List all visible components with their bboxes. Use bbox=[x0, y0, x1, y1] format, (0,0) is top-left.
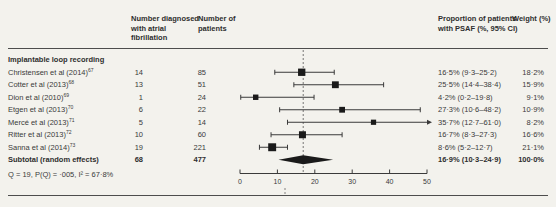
n-patients: 22 bbox=[143, 105, 206, 114]
reference-superscript: 73 bbox=[70, 141, 76, 147]
subtotal-diagnosed: 68 bbox=[120, 155, 143, 164]
reference-superscript: 70 bbox=[68, 104, 74, 110]
study-row: Etgen et al (2013)70 6 22 27·3% (10·6–48… bbox=[0, 104, 556, 117]
n-diagnosed: 19 bbox=[120, 143, 143, 152]
n-patients: 60 bbox=[143, 130, 206, 139]
subtotal-label: Subtotal (random effects) bbox=[0, 155, 120, 164]
n-diagnosed: 1 bbox=[120, 93, 143, 102]
subtotal-row: Subtotal (random effects) 68 477 16·9% (… bbox=[0, 154, 556, 167]
study-row: Dion et al (2010)69 1 24 4·2% (0·2–19·8)… bbox=[0, 91, 556, 104]
section-heading: Implantable loop recording bbox=[8, 54, 104, 66]
header-divider-line bbox=[8, 48, 548, 49]
weight-value: 15·9% bbox=[516, 80, 544, 89]
weight-value: 10·9% bbox=[516, 105, 544, 114]
reference-superscript: 72 bbox=[66, 129, 72, 135]
study-label: Sanna et al (2014) bbox=[8, 143, 70, 152]
study-row: Sanna et al (2014)73 19 221 8·6% (5·2–12… bbox=[0, 141, 556, 154]
x-axis-tick-label: 0 bbox=[238, 178, 242, 185]
study-row: Ritter et al (2013)72 10 60 16·7% (8·3–2… bbox=[0, 129, 556, 142]
proportion-ci: 16·5% (9·3–25·2) bbox=[438, 68, 516, 77]
column-header-patients: Number of patients bbox=[198, 14, 256, 33]
proportion-ci: 4·2% (0·2–19·8) bbox=[438, 93, 516, 102]
weight-value: 8·2% bbox=[516, 118, 544, 127]
proportion-ci: 35·7% (12·7–61·0) bbox=[438, 118, 516, 127]
figure-bottom-line bbox=[8, 195, 548, 196]
forest-plot-figure: Number diagnosed with atrial fibrillatio… bbox=[0, 0, 556, 207]
n-patients: 221 bbox=[143, 143, 206, 152]
column-header-diagnosed: Number diagnosed with atrial fibrillatio… bbox=[131, 14, 203, 43]
column-header-weight: Weight (%) bbox=[512, 14, 552, 24]
study-label: Etgen et al (2013) bbox=[8, 105, 68, 114]
weight-value: 16·6% bbox=[516, 130, 544, 139]
x-axis-tick-label: 30 bbox=[348, 178, 356, 185]
weight-value: 9·1% bbox=[516, 93, 544, 102]
study-row: Cotter et al (2013)68 13 51 25·5% (14·4–… bbox=[0, 79, 556, 92]
study-label: Mercé et al (2013) bbox=[8, 118, 69, 127]
proportion-ci: 27·3% (10·6–48·2) bbox=[438, 105, 516, 114]
study-label: Ritter et al (2013) bbox=[8, 130, 66, 139]
x-axis-tick-label: 40 bbox=[386, 178, 394, 185]
study-row: Mercé et al (2013)71 5 14 35·7% (12·7–61… bbox=[0, 116, 556, 129]
n-diagnosed: 6 bbox=[120, 105, 143, 114]
n-patients: 14 bbox=[143, 118, 206, 127]
heterogeneity-statistics: Q = 19, P(Q) = ·005, I² = 67·8% bbox=[8, 169, 113, 181]
study-label: Christensen et al (2014) bbox=[8, 68, 88, 77]
study-row: Christensen et al (2014)67 14 85 16·5% (… bbox=[0, 66, 556, 79]
proportion-ci: 16·7% (8·3–27·3) bbox=[438, 130, 516, 139]
weight-value: 21·1% bbox=[516, 143, 544, 152]
n-patients: 51 bbox=[143, 80, 206, 89]
x-axis-tick-label: 10 bbox=[274, 178, 282, 185]
n-diagnosed: 5 bbox=[120, 118, 143, 127]
reference-superscript: 67 bbox=[88, 66, 94, 72]
study-table: Christensen et al (2014)67 14 85 16·5% (… bbox=[0, 66, 556, 166]
proportion-ci: 8·6% (5·2–12·7) bbox=[438, 143, 516, 152]
n-diagnosed: 13 bbox=[120, 80, 143, 89]
n-diagnosed: 14 bbox=[120, 68, 143, 77]
subtotal-patients: 477 bbox=[143, 155, 206, 164]
x-axis-tick-label: 50 bbox=[423, 178, 431, 185]
weight-value: 18·2% bbox=[516, 68, 544, 77]
subtotal-proportion-ci: 16·9% (10·3–24·9) bbox=[438, 155, 516, 164]
reference-superscript: 68 bbox=[68, 79, 74, 85]
n-diagnosed: 10 bbox=[120, 130, 143, 139]
reference-superscript: 71 bbox=[69, 116, 75, 122]
reference-superscript: 69 bbox=[63, 91, 69, 97]
subtotal-weight: 100·0% bbox=[516, 155, 544, 164]
n-patients: 85 bbox=[143, 68, 206, 77]
study-label: Cotter et al (2013) bbox=[8, 80, 68, 89]
proportion-ci: 25·5% (14·4–38·4) bbox=[438, 80, 516, 89]
x-axis-tick-label: 20 bbox=[311, 178, 319, 185]
study-label: Dion et al (2010) bbox=[8, 93, 63, 102]
n-patients: 24 bbox=[143, 93, 206, 102]
